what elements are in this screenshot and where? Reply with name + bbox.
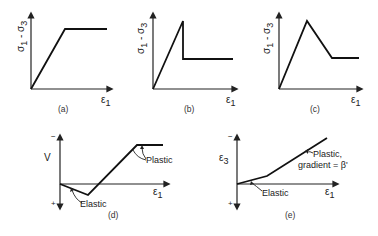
panel-a: σ1 - σ3 ε1 (a) <box>15 15 110 114</box>
x-axis-label-a: ε1 <box>101 94 110 108</box>
caption-e: (e) <box>285 210 296 220</box>
plus-sign-d: + <box>51 199 56 208</box>
minus-sign-d: − <box>51 132 56 141</box>
panel-d: − + V ε1 Elastic Plastic (d) <box>44 132 173 220</box>
minus-sign-e: − <box>228 132 233 141</box>
plastic-leader-line-lower <box>133 150 146 160</box>
y-axis-label-d: V <box>44 152 51 163</box>
caption-d: (d) <box>108 210 119 220</box>
stress-strain-curve-c <box>279 21 359 89</box>
elastic-annotation-e: Elastic <box>262 188 289 198</box>
x-axis-label-b: ε1 <box>226 94 235 108</box>
y-axis-label-b: σ1 - σ3 <box>135 23 149 54</box>
stress-strain-figure: σ1 - σ3 ε1 (a) σ1 - σ3 ε1 (b) σ1 - σ3 ε1… <box>0 0 378 236</box>
volumetric-strain-curve <box>60 145 163 195</box>
stress-strain-curve-a <box>31 29 107 89</box>
x-axis-label-e: ε1 <box>325 186 334 200</box>
y-axis-label-c: σ1 - σ3 <box>261 23 275 54</box>
caption-b: (b) <box>184 104 195 114</box>
panel-b: σ1 - σ3 ε1 (b) <box>135 15 235 114</box>
x-axis-label-d: ε1 <box>153 186 162 200</box>
caption-c: (c) <box>310 104 320 114</box>
plastic-annotation-e: Plastic, <box>313 149 342 159</box>
caption-a: (a) <box>58 104 69 114</box>
gradient-annotation-e: gradient = β' <box>298 160 348 170</box>
panel-e: − + ε3 ε1 Elastic Plastic, gradient = β'… <box>219 132 348 220</box>
panel-c: σ1 - σ3 ε1 (c) <box>261 15 360 114</box>
y-axis-label-a: σ1 - σ3 <box>15 21 29 52</box>
elastic-annotation-d: Elastic <box>80 199 107 209</box>
plus-sign-e: + <box>228 199 233 208</box>
y-axis-label-e: ε3 <box>219 152 228 166</box>
plastic-annotation-d: Plastic <box>146 155 173 165</box>
x-axis-label-c: ε1 <box>351 94 360 108</box>
stress-strain-curve-b <box>153 21 233 89</box>
